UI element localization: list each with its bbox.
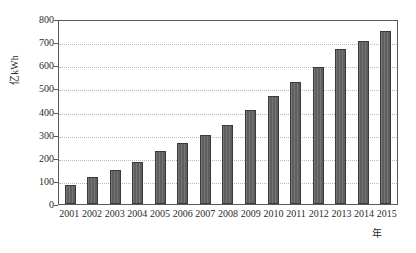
bar-slot (329, 21, 352, 204)
bar (268, 96, 279, 204)
x-axis-tick-label: 2012 (307, 208, 330, 220)
y-axis-tick-mark (54, 89, 58, 90)
y-axis-tick-label: 600 (20, 61, 54, 71)
bar (380, 31, 391, 204)
y-axis-tick-mark (54, 182, 58, 183)
y-axis-tick-mark (54, 20, 58, 21)
bar (132, 162, 143, 204)
x-axis-tick-label: 2002 (81, 208, 104, 220)
bar (87, 177, 98, 204)
bar-slot (262, 21, 285, 204)
bar-slot (172, 21, 195, 204)
bar (177, 143, 188, 204)
bar-slot (127, 21, 150, 204)
y-axis-tick-mark (54, 113, 58, 114)
y-axis-tick-label: 200 (20, 154, 54, 164)
y-axis-tick-mark (54, 43, 58, 44)
bar-slot (307, 21, 330, 204)
bar (110, 170, 121, 204)
y-axis-tick-label: 100 (20, 177, 54, 187)
bar (155, 151, 166, 204)
y-axis-tick-label: 0 (20, 200, 54, 210)
y-axis-tick-label: 400 (20, 108, 54, 118)
x-axis-tick-label: 2007 (194, 208, 217, 220)
bar-slot (104, 21, 127, 204)
bar-slot (217, 21, 240, 204)
x-axis-tick-label: 2014 (353, 208, 376, 220)
bar (313, 67, 324, 204)
x-axis-title: 年 (372, 228, 382, 240)
bar (335, 49, 346, 204)
x-axis-tick-label: 2004 (126, 208, 149, 220)
x-axis-tick-label: 2005 (149, 208, 172, 220)
x-axis-tick-label: 2015 (375, 208, 398, 220)
bar-slot (149, 21, 172, 204)
plot-area (58, 20, 398, 205)
bar (358, 41, 369, 204)
y-axis-tick-label: 800 (20, 15, 54, 25)
bars-layer (59, 21, 397, 204)
bar-slot (194, 21, 217, 204)
x-axis-tick-label: 2003 (103, 208, 126, 220)
y-axis-tick-mark (54, 66, 58, 67)
x-axis-tick-label: 2009 (239, 208, 262, 220)
bar (65, 185, 76, 204)
y-axis-tick-label: 500 (20, 84, 54, 94)
bar-slot (239, 21, 262, 204)
bar (200, 135, 211, 204)
x-axis-tick-labels: 2001200220032004200520062007200820092010… (58, 208, 398, 220)
y-axis-tick-label: 300 (20, 131, 54, 141)
bar-slot (374, 21, 397, 204)
x-axis-tick-label: 2001 (58, 208, 81, 220)
y-axis-tick-labels: 0100200300400500600700800 (20, 20, 54, 205)
bar-slot (352, 21, 375, 204)
x-axis-tick-label: 2010 (262, 208, 285, 220)
y-axis-tick-mark (54, 136, 58, 137)
bar (245, 110, 256, 204)
bar-slot (284, 21, 307, 204)
bar-slot (59, 21, 82, 204)
x-axis-tick-label: 2006 (171, 208, 194, 220)
bar (222, 125, 233, 204)
x-axis-tick-label: 2008 (217, 208, 240, 220)
x-axis-tick-label: 2013 (330, 208, 353, 220)
bar (290, 82, 301, 204)
bar-slot (82, 21, 105, 204)
y-axis-tick-label: 700 (20, 38, 54, 48)
y-axis-tick-mark (54, 205, 58, 206)
bar-chart-figure: 亿kWh 0100200300400500600700800 200120022… (0, 0, 416, 253)
x-axis-tick-label: 2011 (285, 208, 308, 220)
y-axis-tick-mark (54, 159, 58, 160)
